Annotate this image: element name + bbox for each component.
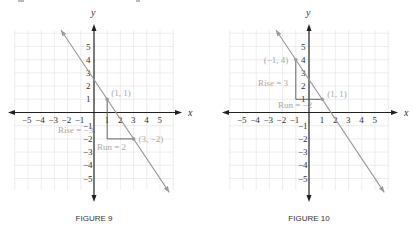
- y-axis-arrow-down: [307, 195, 312, 202]
- x-axis-arrow-right: [391, 110, 398, 115]
- y-tick-label: 2: [301, 81, 306, 91]
- point-label: (1, 1): [327, 89, 347, 99]
- line-series: [276, 30, 384, 192]
- x-axis-arrow-left: [222, 110, 229, 115]
- x-axis-label: x: [403, 107, 409, 118]
- data-point: [294, 58, 298, 62]
- rise-annotation: Rise = 3: [258, 78, 289, 88]
- y-tick-label: −1: [298, 121, 308, 131]
- line-arrow-start: [276, 30, 281, 36]
- point-label: (−1, 4): [264, 55, 289, 65]
- y-tick-label: 4: [301, 55, 306, 65]
- y-axis-arrow-up: [307, 24, 312, 31]
- run-annotation: Run = −2: [278, 100, 312, 110]
- figure-10-chart: xy−5−4−3−2−11234554321−1−2−3−4−5(−1, 4)(…: [0, 0, 413, 232]
- y-tick-label: −2: [298, 134, 308, 144]
- x-tick-label: −5: [237, 115, 247, 125]
- data-point: [320, 98, 324, 102]
- x-tick-label: 4: [359, 115, 364, 125]
- y-tick-label: 5: [301, 42, 306, 52]
- y-tick-label: −4: [298, 160, 308, 170]
- y-tick-label: −3: [298, 147, 308, 157]
- x-tick-label: 1: [320, 115, 325, 125]
- y-tick-label: −5: [298, 174, 308, 184]
- figure-caption: FIGURE 10: [288, 214, 330, 223]
- x-tick-label: −4: [250, 115, 260, 125]
- x-tick-label: −2: [277, 115, 287, 125]
- x-tick-label: 5: [373, 115, 378, 125]
- line-arrow-end: [379, 186, 384, 192]
- x-tick-label: 3: [346, 115, 351, 125]
- x-tick-label: −3: [263, 115, 273, 125]
- y-axis-label: y: [305, 7, 311, 18]
